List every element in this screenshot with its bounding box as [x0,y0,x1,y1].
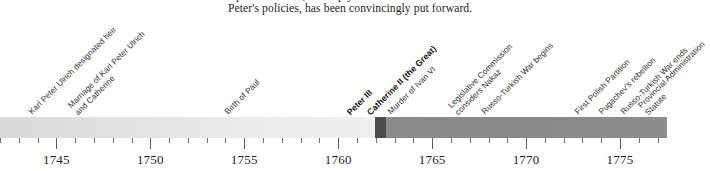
axis-tick-label: 1765 [419,152,446,168]
reign-band-peter-iii [375,117,386,138]
event-label-line: and Catherine [73,36,154,117]
axis-tick-minor [282,138,283,143]
axis-tick-minor [376,138,377,143]
axis-tick-minor [301,138,302,143]
axis-tick-major [338,138,339,149]
axis-tick-label: 1745 [43,152,70,168]
axis-tick-minor [225,138,226,143]
event-label-line: Provincial Administration [636,39,706,109]
axis-tick-major [244,138,245,149]
axis-tick-label: 1775 [607,152,634,168]
axis-tick-minor [639,138,640,143]
axis-tick-label: 1760 [325,152,352,168]
timeline-figure: Karl Peter Ulrich designated heirMarriag… [0,24,667,171]
axis-tick-minor [75,138,76,143]
axis-tick-minor [601,138,602,143]
axis-tick-minor [545,138,546,143]
event-label-line: Birth of Paul [223,78,261,116]
event-label: Birth of Paul [223,78,262,117]
reign-bar [0,117,667,138]
axis-tick-minor [207,138,208,143]
axis-tick-minor [470,138,471,143]
axis-tick-minor [658,138,659,143]
axis-tick-minor [582,138,583,143]
event-label: Provincial AdministrationStatute [636,39,710,117]
axis-tick-minor [451,138,452,143]
axis-tick-minor [507,138,508,143]
axis-tick-minor [188,138,189,143]
axis-tick-minor [319,138,320,143]
axis-tick-minor [564,138,565,143]
axis-tick-major [56,138,57,149]
axis-tick-minor [132,138,133,143]
axis-tick-minor [395,138,396,143]
axis-tick-minor [113,138,114,143]
axis-tick-minor [413,138,414,143]
event-label: Marriage of Karl Peter Ulrichand Catheri… [66,29,154,117]
clipped-body-text-line: a political cabal, or simply a reaction … [228,0,658,1]
axis-tick-major [620,138,621,149]
axis-tick-label: 1770 [513,152,540,168]
axis-tick-label: 1750 [137,152,164,168]
axis-tick-major [150,138,151,149]
reign-band-elizabeth [0,117,375,138]
axis-tick-label: 1755 [231,152,258,168]
reign-band-catherine-ii [386,117,667,138]
axis-tick-minor [263,138,264,143]
axis-tick-minor [0,138,1,143]
axis-tick-minor [169,138,170,143]
axis-tick-minor [19,138,20,143]
axis-tick-minor [94,138,95,143]
axis-tick-major [526,138,527,149]
timeline-axis: 1745175017551760176517701775 [0,138,667,171]
axis-tick-major [432,138,433,149]
axis-tick-minor [489,138,490,143]
axis-tick-minor [38,138,39,143]
axis-tick-minor [357,138,358,143]
body-text-line: Peter's policies, has been convincingly … [228,2,658,15]
